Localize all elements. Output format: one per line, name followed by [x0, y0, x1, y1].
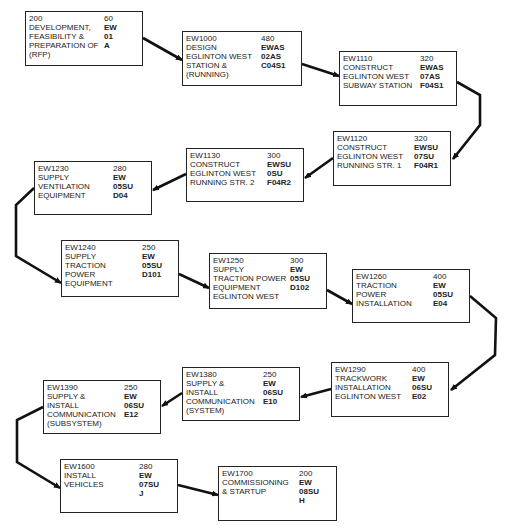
node-code: H: [299, 496, 319, 505]
activity-node: EW1000DESIGNEGLINTON WESTSTATION &(RUNNI…: [182, 31, 302, 86]
node-code: F04S1: [420, 81, 444, 90]
arrow-n6-to-n7: [179, 274, 209, 288]
node-code: EW: [263, 379, 283, 388]
node-code: EW: [412, 374, 432, 383]
node-code: 06SU: [263, 388, 283, 397]
node-code: EW: [113, 173, 133, 182]
node-id: 200: [29, 14, 139, 23]
node-duration: 480: [261, 34, 285, 43]
node-code: 05SU: [433, 290, 453, 299]
activity-node: EW1250SUPPLYTRACTION POWEREQUIPMENTEGLIN…: [209, 253, 327, 309]
node-duration: 300: [267, 151, 291, 160]
node-code: EW: [290, 265, 310, 274]
node-code: 0SU: [267, 169, 291, 178]
activity-node: EW1390SUPPLY &INSTALLCOMMUNICATION(SUBSY…: [43, 380, 161, 434]
node-code: 05SU: [142, 261, 162, 270]
node-code: D102: [290, 283, 310, 292]
node-code: 07SU: [414, 152, 438, 161]
node-description-line: FEASIBILITY &: [29, 32, 139, 41]
node-description-line: (SYSTEM): [186, 406, 296, 415]
activity-node: EW1380SUPPLY &INSTALLCOMMUNICATION(SYSTE…: [182, 367, 300, 421]
node-duration: 60: [104, 14, 117, 23]
node-code: EWAS: [420, 63, 444, 72]
node-code: EWSU: [267, 160, 291, 169]
activity-node: EW1230SUPPLYVENTILATIONEQUIPMENT280EW05S…: [34, 161, 152, 215]
node-code: F04R1: [414, 161, 438, 170]
node-code: E02: [412, 392, 432, 401]
node-duration: 300: [290, 256, 310, 265]
node-duration: 400: [433, 272, 453, 281]
node-code: D101: [142, 270, 162, 279]
node-duration: 280: [113, 164, 133, 173]
node-code: 07SU: [139, 480, 159, 489]
node-code: D04: [113, 191, 133, 200]
node-duration: 250: [142, 243, 162, 252]
node-code: EW: [142, 252, 162, 261]
node-code: E12: [124, 410, 144, 419]
arrow-n12-to-n13: [178, 485, 218, 495]
node-code: A: [104, 41, 117, 50]
node-code: 06SU: [124, 401, 144, 410]
activity-node: EW1600INSTALLVEHICLES280EW07SUJ: [60, 459, 178, 513]
node-code: F04R2: [267, 178, 291, 187]
node-code: 05SU: [113, 182, 133, 191]
node-code: EWAS: [261, 43, 285, 52]
node-code: EW: [124, 392, 144, 401]
activity-node: EW1130CONSTRUCTEGLINTON WESTRUNNING STR.…: [186, 148, 304, 202]
activity-node: 200DEVELOPMENT,FEASIBILITY &PREPARATION …: [25, 11, 143, 66]
node-duration: 400: [412, 365, 432, 374]
node-description-line: DEVELOPMENT,: [29, 23, 139, 32]
activity-node: EW1290TRACKWORKINSTALLATIONEGLINTON WEST…: [331, 362, 449, 417]
node-code: 02AS: [261, 52, 285, 61]
node-code: EW: [139, 471, 159, 480]
node-code: EW: [104, 23, 117, 32]
node-code: 08SU: [299, 487, 319, 496]
arrow-n10-to-n11: [162, 393, 182, 406]
node-description-line: (RUNNING): [186, 70, 298, 79]
activity-node: EW1120CONSTRUCTEGLINTON WESTRUNNING STR.…: [333, 131, 451, 186]
node-description-line: (SUBSYSTEM): [47, 419, 157, 428]
node-duration: 320: [420, 54, 444, 63]
arrow-n2-to-n3: [453, 82, 480, 159]
node-code: EWSU: [414, 143, 438, 152]
node-code: E10: [263, 397, 283, 406]
node-code: EW: [299, 478, 319, 487]
node-duration: 320: [414, 134, 438, 143]
node-code: C04S1: [261, 61, 285, 70]
node-code: J: [139, 489, 159, 498]
activity-node: EW1700COMMISSIONING& STARTUP200EW08SUH: [218, 466, 337, 521]
arrow-n3-to-n4: [305, 158, 333, 178]
arrow-n1-to-n2: [302, 64, 339, 76]
node-description-line: PREPARATION OF: [29, 41, 139, 50]
node-code: 06SU: [412, 383, 432, 392]
node-duration: 250: [263, 370, 283, 379]
activity-node: EW1110CONSTRUCTEGLINTON WESTSUBWAY STATI…: [339, 51, 457, 106]
node-duration: 280: [139, 462, 159, 471]
arrow-n9-to-n10: [301, 389, 331, 397]
arrow-n7-to-n8: [327, 290, 352, 304]
node-description-line: (RFP): [29, 50, 139, 59]
node-description-line: EQUIPMENT: [65, 279, 175, 288]
node-code: 01: [104, 32, 117, 41]
node-code: 07AS: [420, 72, 444, 81]
node-duration: 200: [299, 469, 319, 478]
arrow-n4-to-n5: [153, 174, 186, 190]
arrow-n0-to-n1: [143, 38, 182, 60]
node-description-line: EGLINTON WEST: [213, 292, 323, 301]
node-code: E04: [433, 299, 453, 308]
node-code: EW: [433, 281, 453, 290]
activity-node: EW1240SUPPLYTRACTIONPOWEREQUIPMENT250EW0…: [61, 240, 179, 297]
activity-node: EW1260TRACTIONPOWERINSTALLATION400EW05SU…: [352, 269, 470, 323]
node-code: 05SU: [290, 274, 310, 283]
node-duration: 250: [124, 383, 144, 392]
